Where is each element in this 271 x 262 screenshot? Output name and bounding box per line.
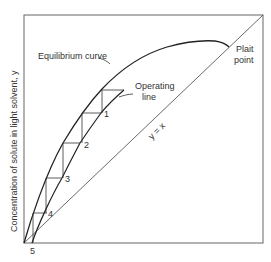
stage-label-3: 3 [65,174,70,184]
diagonal-line [24,15,263,243]
operating-line-label-2: line [142,92,156,102]
plait-point-label-2: point [234,55,254,65]
stage-label-2: 2 [84,140,89,150]
equilibrium-curve [24,41,229,243]
operating-line-label-1: Operating [135,81,175,91]
stage-label-4: 4 [48,209,53,219]
stage-label-1: 1 [104,109,109,119]
operating-line [32,90,124,243]
y-axis-label: Concentration of solute in light solvent… [9,70,19,232]
operating-leader [119,94,133,97]
stage-label-5: 5 [30,246,35,256]
diagram-canvas: Equilibrium curve Operating line Plait p… [0,0,271,262]
stage-steps [33,90,124,243]
extraction-diagram: Equilibrium curve Operating line Plait p… [0,0,271,262]
equilibrium-curve-label: Equilibrium curve [38,51,107,61]
plait-point-label-1: Plait [236,44,254,54]
